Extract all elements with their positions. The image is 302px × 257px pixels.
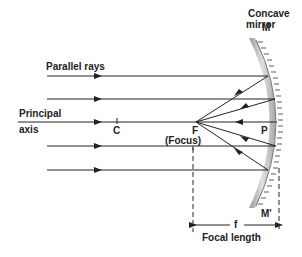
point-m-prime-label: M' xyxy=(261,208,272,219)
point-m-label: M xyxy=(262,22,270,33)
point-c-label: C xyxy=(113,125,120,136)
principal-axis-label-2: axis xyxy=(19,124,38,135)
focus-label: (Focus) xyxy=(165,135,201,146)
mirror-diagram xyxy=(0,0,302,257)
principal-axis-label: Principal xyxy=(19,108,61,119)
mirror-label-2: mirror xyxy=(246,19,275,30)
f-label: f xyxy=(234,219,237,230)
parallel-rays-label: Parallel rays xyxy=(46,61,105,72)
mirror-label: Concave xyxy=(248,8,290,19)
focal-length-label: Focal length xyxy=(202,232,261,243)
point-p-label: P xyxy=(261,125,268,136)
concave-mirror xyxy=(249,38,283,208)
reflected-rays xyxy=(196,76,276,170)
